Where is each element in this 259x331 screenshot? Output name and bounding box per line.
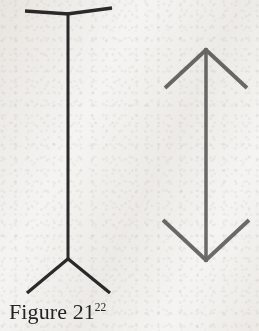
right-top-barb-left xyxy=(165,49,207,88)
figure-page: Figure 2122 xyxy=(0,0,259,331)
right-top-barb-right xyxy=(205,49,247,88)
figure-left-fins-out xyxy=(25,8,112,293)
right-bottom-barb-left xyxy=(163,220,207,261)
figure-right-arrows-in xyxy=(163,48,249,262)
left-top-fin-right xyxy=(67,8,112,14)
caption-label: Figure 21 xyxy=(9,299,95,324)
illusion-diagram xyxy=(0,0,259,331)
left-bottom-fin-left xyxy=(27,258,69,293)
left-top-fin-left xyxy=(25,11,69,14)
figure-caption: Figure 2122 xyxy=(9,301,106,323)
left-bottom-fin-right xyxy=(67,258,110,293)
caption-footnote-marker: 22 xyxy=(95,301,106,313)
right-bottom-barb-right xyxy=(205,220,249,261)
